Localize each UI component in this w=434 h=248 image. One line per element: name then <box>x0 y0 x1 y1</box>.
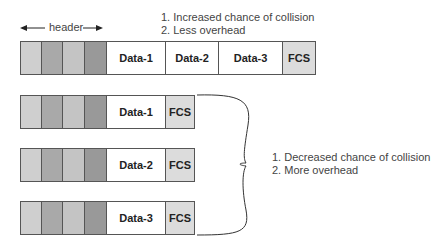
header-cell <box>85 149 107 181</box>
top-note-1: 1. Increased chance of collision <box>161 11 314 24</box>
top-note-2: 2. Less overhead <box>161 24 314 37</box>
header-label: header <box>49 21 83 33</box>
header-cell <box>21 42 42 74</box>
header-cell <box>42 96 63 128</box>
header-cell <box>85 202 107 234</box>
side-note-1: 1. Decreased chance of collision <box>272 151 430 164</box>
side-notes: 1. Decreased chance of collision 2. More… <box>272 151 430 177</box>
data-cell: Data-2 <box>107 149 166 181</box>
data-cell: Data-3 <box>107 202 166 234</box>
data-cell: Data-3 <box>219 42 283 74</box>
header-cell <box>42 202 63 234</box>
data-cell: Data-2 <box>166 42 219 74</box>
header-cell <box>21 149 42 181</box>
top-notes: 1. Increased chance of collision 2. Less… <box>161 11 314 37</box>
header-cell <box>42 42 63 74</box>
fcs-cell: FCS <box>166 96 194 128</box>
header-cell <box>21 96 42 128</box>
fcs-cell: FCS <box>283 42 315 74</box>
header-cell <box>42 149 63 181</box>
header-cell <box>63 96 85 128</box>
data-cell: Data-1 <box>107 42 166 74</box>
split-frame-2: Data-2 FCS <box>20 148 195 182</box>
split-frame-3: Data-3 FCS <box>20 201 195 235</box>
header-cell <box>85 42 107 74</box>
header-cell <box>63 149 85 181</box>
side-note-2: 2. More overhead <box>272 164 430 177</box>
header-cell <box>21 202 42 234</box>
header-cell <box>63 42 85 74</box>
data-cell: Data-1 <box>107 96 166 128</box>
header-cell <box>63 202 85 234</box>
split-frame-1: Data-1 FCS <box>20 95 195 129</box>
header-cell <box>85 96 107 128</box>
fcs-cell: FCS <box>166 202 194 234</box>
single-frame: Data-1 Data-2 Data-3 FCS <box>20 41 316 75</box>
fcs-cell: FCS <box>166 149 194 181</box>
